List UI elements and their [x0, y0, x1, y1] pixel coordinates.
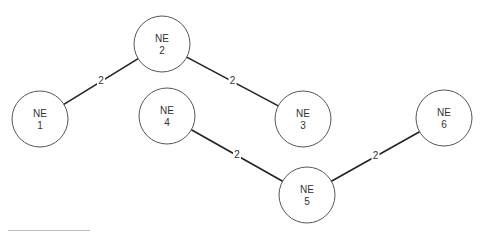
- link-ne2-ne1[interactable]: 2: [64, 59, 138, 105]
- link-ne2-ne3[interactable]: 2: [187, 57, 279, 106]
- link-ne4-ne5[interactable]: 2: [191, 130, 282, 181]
- node-circle[interactable]: [139, 88, 195, 144]
- link-label: 2: [234, 149, 240, 160]
- node-number-label: 5: [304, 196, 310, 207]
- nodes-layer: NE1NE2NE3NE4NE5NE6: [12, 16, 472, 223]
- node-circle[interactable]: [134, 16, 190, 72]
- node-type-label: NE: [300, 184, 314, 195]
- links-layer: 2222: [64, 57, 420, 181]
- node-number-label: 4: [164, 117, 170, 128]
- node-ne6[interactable]: NE6: [416, 90, 472, 146]
- node-number-label: 1: [37, 120, 43, 131]
- node-number-label: 2: [159, 45, 165, 56]
- network-diagram: 2222 NE1NE2NE3NE4NE5NE6: [0, 0, 480, 233]
- node-type-label: NE: [33, 108, 47, 119]
- node-ne3[interactable]: NE3: [275, 91, 331, 147]
- node-circle[interactable]: [275, 91, 331, 147]
- node-number-label: 3: [300, 120, 306, 131]
- node-circle[interactable]: [12, 91, 68, 147]
- node-type-label: NE: [160, 105, 174, 116]
- node-number-label: 6: [441, 119, 447, 130]
- link-ne5-ne6[interactable]: 2: [331, 132, 419, 182]
- node-type-label: NE: [155, 33, 169, 44]
- node-type-label: NE: [296, 108, 310, 119]
- link-label: 2: [230, 75, 236, 86]
- node-ne1[interactable]: NE1: [12, 91, 68, 147]
- node-circle[interactable]: [279, 167, 335, 223]
- node-ne5[interactable]: NE5: [279, 167, 335, 223]
- node-circle[interactable]: [416, 90, 472, 146]
- node-ne2[interactable]: NE2: [134, 16, 190, 72]
- footer-rule: [8, 230, 90, 231]
- link-label: 2: [98, 75, 104, 86]
- node-type-label: NE: [437, 107, 451, 118]
- node-ne4[interactable]: NE4: [139, 88, 195, 144]
- link-label: 2: [373, 150, 379, 161]
